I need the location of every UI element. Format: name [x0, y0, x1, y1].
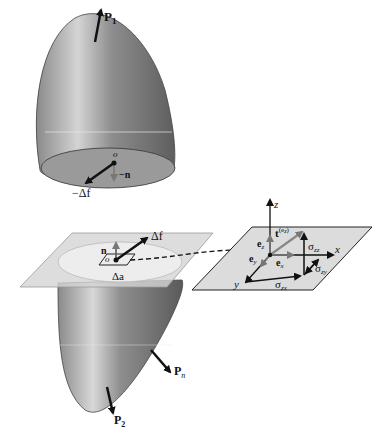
minus-delta-f-label: −Δf [72, 186, 90, 200]
p1-label: P1 [104, 9, 117, 26]
detail-plane [192, 200, 372, 290]
stress-plane [192, 227, 372, 290]
delta-a-label: Δa [112, 270, 124, 282]
pn-label: Pn [174, 364, 185, 380]
detail-origin-dot [268, 253, 272, 257]
x-axis-label: x [334, 243, 340, 255]
bottom-origin-dot [114, 258, 119, 263]
p2-label: P2 [114, 413, 125, 429]
top-origin-dot [112, 161, 117, 166]
delta-f-label: Δf [151, 229, 163, 243]
z-axis-label: z [273, 198, 279, 210]
bottom-origin-label: o [105, 254, 110, 264]
y-axis-label: y [233, 278, 239, 290]
pn-arrow [151, 350, 170, 372]
top-origin-label: o [113, 149, 118, 159]
minus-n-label: −n [119, 169, 131, 180]
stress-diagram: P1 o −n −Δf n Δf o Δa Pn P2 [0, 0, 391, 448]
top-body [36, 10, 175, 188]
bottom-body [20, 233, 240, 413]
